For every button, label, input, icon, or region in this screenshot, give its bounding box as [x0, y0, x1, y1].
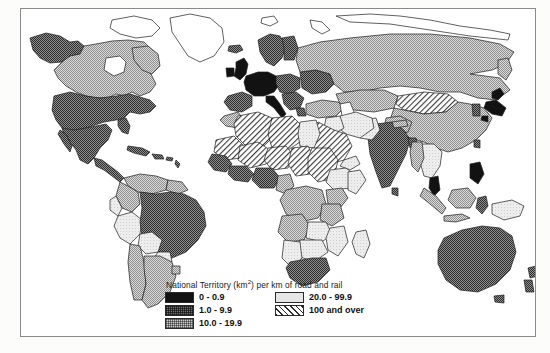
- region-algeria: [234, 112, 274, 146]
- legend-column-right: 20.0 - 99.9 100 and over: [275, 292, 364, 330]
- legend-item[interactable]: 100 and over: [275, 305, 364, 317]
- region-sulawesi: [476, 196, 488, 214]
- region-ivory-coast-ghana: [228, 166, 254, 182]
- region-madagascar: [352, 230, 370, 258]
- region-russia: [296, 34, 514, 100]
- legend-label-20-99-9: 20.0 - 99.9: [309, 292, 352, 303]
- legend-label-10-19-9: 10.0 - 19.9: [199, 318, 242, 329]
- legend-label-1-9-9: 1.0 - 9.9: [199, 305, 232, 316]
- region-somalia: [348, 170, 366, 194]
- region-hispaniola: [152, 154, 164, 159]
- region-indochina: [420, 144, 442, 178]
- legend-item[interactable]: 0 - 0.9: [165, 292, 275, 304]
- region-java: [444, 214, 470, 222]
- region-central-europe: [276, 74, 300, 94]
- legend-swatch-100-and-over: [275, 305, 304, 316]
- region-turkey: [306, 100, 344, 118]
- region-novaya-zemlya: [310, 20, 330, 34]
- legend-column-left: 0 - 0.9 1.0 - 9.9 10.0 - 19.9: [165, 292, 275, 330]
- legend-swatch-1-9-9: [165, 305, 194, 316]
- legend-title: National Territory (km2) per km of road …: [166, 277, 465, 290]
- legend-title-rest: ) per km of road and rail: [251, 280, 342, 290]
- region-uruguay: [172, 266, 180, 274]
- region-korea: [472, 104, 480, 116]
- region-finland: [282, 36, 298, 60]
- region-libya: [268, 116, 300, 150]
- region-new-zealand-north: [528, 266, 538, 278]
- legend-item[interactable]: 1.0 - 9.9: [165, 305, 275, 317]
- region-mali: [238, 142, 270, 168]
- legend-title-main: National Territory (km: [166, 280, 248, 290]
- region-sri-lanka: [392, 188, 398, 196]
- legend-item[interactable]: 20.0 - 99.9: [275, 292, 364, 304]
- region-greenland: [170, 14, 224, 62]
- region-taiwan: [474, 140, 480, 148]
- region-puerto-rico: [166, 157, 173, 161]
- legend-label-100-and-over: 100 and over: [309, 305, 364, 316]
- region-kamchatka: [498, 58, 512, 80]
- legend-item[interactable]: 10.0 - 19.9: [165, 318, 275, 330]
- region-cuba: [127, 146, 150, 156]
- region-borneo: [448, 188, 476, 208]
- region-greece: [296, 108, 306, 116]
- region-new-zealand-south: [524, 280, 534, 292]
- region-lesser-antilles: [175, 160, 180, 168]
- region-western-europe-core: [244, 72, 280, 96]
- region-iberia: [224, 92, 252, 112]
- region-svalbard: [261, 16, 278, 26]
- region-florida: [118, 118, 130, 134]
- region-peru: [114, 212, 142, 244]
- region-arctic-islands-west: [110, 16, 160, 38]
- legend-swatch-10-19-9: [165, 318, 194, 329]
- region-balkans: [282, 92, 304, 110]
- region-tasmania: [494, 295, 504, 303]
- legend-label-0-0-9: 0 - 0.9: [199, 292, 225, 303]
- map-legend: National Territory (km2) per km of road …: [165, 277, 465, 335]
- region-central-america: [94, 158, 124, 182]
- legend-swatch-0-0-9: [165, 292, 194, 303]
- region-nigeria: [252, 168, 280, 188]
- region-angola: [278, 214, 310, 242]
- region-iceland: [228, 45, 243, 53]
- region-papua-new-guinea: [492, 200, 524, 220]
- legend-swatch-20-99-9: [275, 292, 304, 303]
- region-philippines: [470, 162, 484, 184]
- region-mozambique: [326, 226, 348, 256]
- region-scandinavia: [258, 34, 286, 66]
- region-chile: [128, 244, 146, 300]
- region-ireland: [226, 68, 234, 77]
- map-regions: [30, 14, 538, 308]
